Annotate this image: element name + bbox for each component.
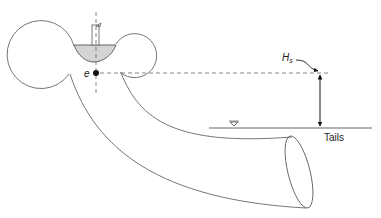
tailwater-label: Tails: [324, 132, 344, 143]
spiral-casing-right: [116, 34, 157, 78]
draft-tube-inner: [121, 73, 292, 139]
shaft: [92, 25, 99, 45]
turbine-diagram: e Tails Hs: [0, 0, 381, 218]
suction-head-label: Hs: [282, 52, 293, 64]
draft-tube-outlet: [279, 133, 318, 210]
spiral-casing-left: [7, 21, 74, 89]
elevation-point: [93, 70, 99, 76]
water-surface-icon: [230, 122, 238, 126]
suction-head-leader: [296, 60, 318, 71]
runner: [74, 45, 116, 62]
draft-tube-outer: [70, 74, 306, 208]
elevation-point-label: e: [84, 68, 90, 79]
